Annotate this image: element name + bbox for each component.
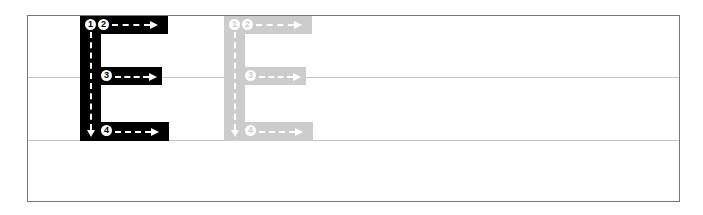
handwriting-practice-box [27,15,680,202]
stroke-4-right-arrow-icon [259,131,295,133]
stroke-2-right-arrow-icon [112,24,150,26]
stroke-1-down-arrow-icon [90,32,92,130]
stroke-number-3: 3 [245,70,256,81]
stroke-4-right-arrow-icon [115,131,151,133]
stroke-number-2: 2 [98,19,109,30]
stroke-number-4: 4 [101,125,112,136]
stroke-2-right-arrow-icon [256,24,294,26]
stroke-1-down-arrow-icon [234,32,236,130]
stroke-number-3: 3 [101,70,112,81]
stroke-number-1: 1 [85,19,96,30]
stroke-number-4: 4 [245,125,256,136]
stroke-3-right-arrow-icon [115,76,149,78]
stroke-number-1: 1 [229,19,240,30]
stroke-number-2: 2 [242,19,253,30]
stroke-3-right-arrow-icon [259,76,293,78]
